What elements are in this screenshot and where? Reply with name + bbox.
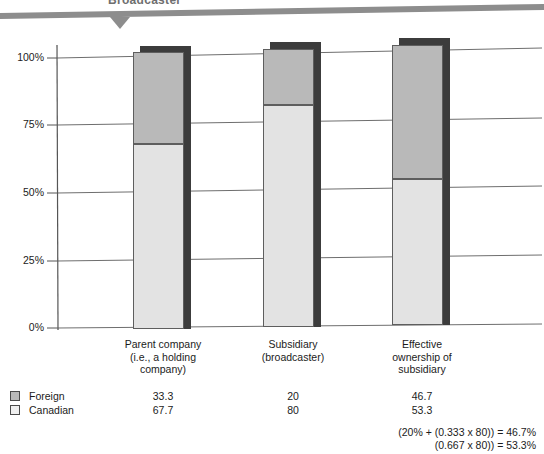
- value-column-subsidiary: 20 80: [248, 389, 338, 417]
- bar-segment-foreign[interactable]: [133, 52, 184, 144]
- category-line: subsidiary: [362, 363, 482, 376]
- ytick-label-0: 0%: [4, 321, 44, 333]
- value-column-effective-ownership: 46.7 53.3: [377, 389, 467, 417]
- category-line: Effective: [362, 338, 482, 351]
- category-line: company): [103, 363, 223, 376]
- bar-group-effective-ownership: [392, 0, 452, 340]
- bar-group-subsidiary: [263, 0, 323, 340]
- value-foreign: 46.7: [377, 389, 467, 403]
- value-canadian: 53.3: [377, 403, 467, 417]
- value-canadian: 67.7: [118, 403, 208, 417]
- bar-segment-canadian[interactable]: [392, 179, 443, 325]
- chart-legend: Foreign Canadian: [10, 389, 74, 417]
- category-label-subsidiary: Subsidiary (broadcaster): [233, 338, 353, 363]
- bar-group-parent-company: [133, 0, 193, 340]
- ytick-label-100: 100%: [4, 51, 44, 63]
- legend-swatch-canadian-icon: [10, 405, 20, 415]
- category-label-parent-company: Parent company (i.e., a holding company): [103, 338, 223, 376]
- value-foreign: 33.3: [118, 389, 208, 403]
- chart-annotations: (20% + (0.333 x 80)) = 46.7% (0.667 x 80…: [398, 426, 536, 452]
- value-canadian: 80: [248, 403, 338, 417]
- annotation-line-2: (0.667 x 80)) = 53.3%: [398, 439, 536, 452]
- category-line: (broadcaster): [233, 351, 353, 364]
- legend-item-canadian[interactable]: Canadian: [10, 403, 74, 416]
- bar-segment-canadian[interactable]: [133, 144, 184, 329]
- category-line: Parent company: [103, 338, 223, 351]
- stacked-bar-chart: 100% 75% 50% 25% 0% Parent company (i.e.…: [0, 0, 544, 454]
- legend-label-canadian: Canadian: [29, 404, 74, 416]
- category-line: (i.e., a holding: [103, 351, 223, 364]
- value-column-parent-company: 33.3 67.7: [118, 389, 208, 417]
- annotation-line-1: (20% + (0.333 x 80)) = 46.7%: [398, 426, 536, 439]
- category-line: Subsidiary: [233, 338, 353, 351]
- bar-segment-foreign[interactable]: [263, 49, 314, 105]
- category-line: ownership of: [362, 351, 482, 364]
- ytick-label-75: 75%: [4, 118, 44, 130]
- ytick-label-50: 50%: [4, 186, 44, 198]
- legend-swatch-foreign-icon: [10, 391, 20, 401]
- legend-label-foreign: Foreign: [29, 390, 65, 402]
- legend-item-foreign[interactable]: Foreign: [10, 389, 74, 402]
- ytick-label-25: 25%: [4, 254, 44, 266]
- bar-segment-foreign[interactable]: [392, 45, 443, 179]
- bar-segment-canadian[interactable]: [263, 105, 314, 327]
- value-foreign: 20: [248, 389, 338, 403]
- category-label-effective-ownership: Effective ownership of subsidiary: [362, 338, 482, 376]
